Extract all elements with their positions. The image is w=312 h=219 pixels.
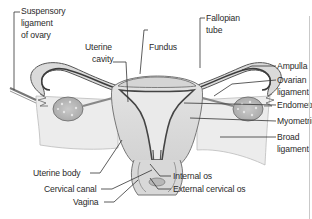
figure-border <box>309 16 310 219</box>
left-fallopian-tube <box>31 63 118 96</box>
label-suspensory-ligament-line2: ligament <box>21 18 53 28</box>
label-broad-ligament-line1: Broad <box>277 132 299 142</box>
label-fallopian-tube-line1: Fallopian <box>206 13 240 23</box>
label-fundus: Fundus <box>149 42 177 52</box>
label-external-cervical-os: External cervical os <box>173 184 246 194</box>
label-ovarian-ligament-line2: ligament <box>277 87 309 97</box>
label-cervical-canal: Cervical canal <box>44 184 97 194</box>
label-suspensory-ligament-line3: of ovary <box>21 30 51 40</box>
right-fallopian-tube <box>195 63 281 96</box>
label-uterine-cavity-line1: Uterine <box>85 42 112 52</box>
label-fallopian-tube-line2: tube <box>206 25 222 35</box>
label-ampulla: Ampulla <box>277 61 307 71</box>
label-uterine-body: Uterine body <box>33 168 81 178</box>
uterus-anatomy-diagram: Suspensory ligament of ovary Uterine cav… <box>0 0 312 219</box>
label-ovarian-ligament-line1: Ovarian <box>277 75 306 85</box>
label-myometrium: Myometrium <box>277 116 312 126</box>
label-endometrium: Endometrium <box>277 100 312 110</box>
label-internal-os: Internal os <box>173 171 212 181</box>
label-broad-ligament-line2: ligament <box>277 144 309 154</box>
label-vagina: Vagina <box>73 197 99 207</box>
label-suspensory-ligament-line1: Suspensory <box>21 6 65 16</box>
label-uterine-cavity-line2: cavity <box>92 54 113 64</box>
